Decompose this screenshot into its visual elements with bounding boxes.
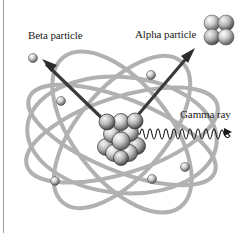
electron-icon	[147, 71, 156, 80]
gamma-ray-label: Gamma ray	[180, 108, 231, 120]
alpha-particle-label: Alpha particle	[135, 28, 196, 40]
electron-icon	[57, 97, 66, 106]
electron-icon	[148, 175, 157, 184]
electron-icon	[181, 163, 190, 172]
electron-icon	[51, 177, 60, 186]
atom-diagram: Beta particle Alpha particle Gamma ray	[0, 0, 247, 233]
gamma-arrow-head	[224, 128, 232, 136]
nucleus-icon	[98, 113, 146, 166]
beta-particle-icon	[29, 54, 38, 63]
beta-particle-label: Beta particle	[28, 29, 83, 41]
alpha-particle-icon	[204, 15, 234, 45]
